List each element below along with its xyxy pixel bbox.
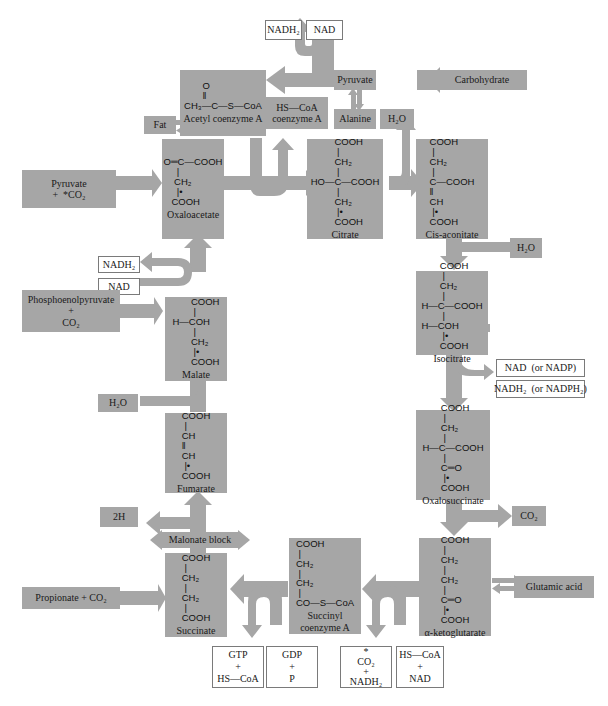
input-label: HS—CoA coenzyme A xyxy=(272,102,322,125)
input-pyruvate-top: Pyruvate xyxy=(334,70,376,90)
input-label: Propionate + CO₂ xyxy=(35,592,106,604)
compound-citrate: COOH | CH₂ | HO—C—COOH | CH₂ |• COOH Cit… xyxy=(307,139,383,239)
compound-name: Acetyl coenzyme A xyxy=(184,113,263,125)
input-h2o-citrate: H₂O xyxy=(380,109,414,129)
cofactor-nadh2-isocitrate: NADH₂ (or NADPH₂) xyxy=(496,380,585,398)
input-label: Fat xyxy=(154,119,167,131)
compound-formula: COOH | CH₂ | CH₂ | COOH xyxy=(182,553,211,623)
input-fat: Fat xyxy=(144,116,176,134)
input-h2o-aconitate: H₂O xyxy=(510,238,542,258)
input-phosphoenolpyruvate: Phosphoenolpyruvate + CO₂ xyxy=(22,290,120,332)
input-label: H₂O xyxy=(109,397,127,409)
compound-formula: COOH | CH₂ | C—COOH ‖ CH |• COOH xyxy=(430,137,475,227)
compound-malate: COOH | H—COH | CH₂ |• COOH Malate xyxy=(165,297,227,381)
compound-name: Malate xyxy=(182,369,210,381)
cofactor-nadh2-malate: NADH₂ xyxy=(98,256,140,273)
compound-succinate: COOH | CH₂ | CH₂ | COOH Succinate xyxy=(165,553,227,637)
input-propionate: Propionate + CO₂ xyxy=(22,587,120,609)
input-2h: 2H xyxy=(100,507,138,527)
compound-name: Isocitrate xyxy=(433,353,470,365)
compound-formula: COOH | CH₂ | HO—C—COOH | CH₂ |• COOH xyxy=(311,137,380,227)
cofactor-co2-nadh2: * CO₂ + NADH₂ xyxy=(340,646,392,688)
compound-formula: COOH | CH ‖ CH |• COOH xyxy=(182,411,211,481)
input-h2o-fumarate: H₂O xyxy=(98,394,138,412)
compound-name: Succinate xyxy=(177,625,216,637)
compound-name: Citrate xyxy=(331,229,358,241)
compound-name: Succinyl coenzyme A xyxy=(300,610,350,633)
input-hs-coa: HS—CoA coenzyme A xyxy=(266,97,328,129)
input-carbohydrate: Carbohydrate xyxy=(417,70,527,90)
input-label: H₂O xyxy=(388,113,406,125)
compound-formula: COOH | CH₂ | H—C—COOH | C═O |• COOH xyxy=(422,403,483,493)
input-label: CO₂ xyxy=(520,510,537,522)
compound-oxaloacetate: O═C—COOH | CH₂ |• COOH Oxaloacetate xyxy=(162,139,224,239)
cofactor-nad-isocitrate: NAD (or NADP) xyxy=(496,359,585,377)
cofactor-nad-top: NAD xyxy=(306,20,343,40)
cofactor-label: NADH₂ xyxy=(103,259,135,271)
compound-acetyl-coa: O ‖ CH₃—C—S—CoA Acetyl coenzyme A xyxy=(180,70,266,136)
compound-fumarate: COOH | CH ‖ CH |• COOH Fumarate xyxy=(165,413,227,493)
cofactor-label: NAD xyxy=(314,24,336,36)
compound-succinyl-coa: COOH | CH₂ | CH₂ | CO—S—CoA Succinyl coe… xyxy=(289,538,361,634)
compound-name: Oxalosuccinate xyxy=(422,495,484,507)
compound-name: Fumarate xyxy=(177,483,215,495)
output-co2-oxalosuccinate: CO₂ xyxy=(512,506,546,526)
compound-oxalosuccinate: COOH | CH₂ | H—C—COOH | C═O |• COOH Oxal… xyxy=(416,410,490,500)
input-label: Alanine xyxy=(339,113,371,125)
compound-name: Cis-aconitate xyxy=(426,229,479,241)
cofactor-label: GTP + HS—CoA xyxy=(217,649,259,685)
malonate-block-label: Malonate block xyxy=(162,532,238,548)
cofactor-label: GDP + P xyxy=(282,649,302,685)
compound-formula: COOH | CH₂ | CH₂ | CO—S—CoA xyxy=(296,539,354,609)
compound-formula: COOH | CH₂ | H—C—COOH | H—COH |• COOH xyxy=(421,261,482,351)
compound-alpha-ketoglutarate: COOH | CH₂ | CH₂ | C═O |• COOH α-ketoglu… xyxy=(419,538,491,636)
compound-cis-aconitate: COOH | CH₂ | C—COOH ‖ CH |• COOH Cis-aco… xyxy=(416,139,488,239)
input-label: 2H xyxy=(113,511,125,523)
compound-isocitrate: COOH | CH₂ | H—C—COOH | H—COH |• COOH Is… xyxy=(416,271,488,355)
compound-name: α-ketoglutarate xyxy=(425,627,486,639)
compound-formula: O ‖ CH₃—C—S—CoA xyxy=(184,81,262,111)
input-label: Pyruvate + *CO₂ xyxy=(51,178,87,201)
cofactor-label: * CO₂ + NADH₂ xyxy=(350,647,382,687)
input-label: H₂O xyxy=(517,242,535,254)
cofactor-gtp: GTP + HS—CoA xyxy=(212,646,264,688)
cofactor-hscoa-nad: HS—CoA + NAD xyxy=(396,646,444,688)
cofactor-label: NADH₂ xyxy=(267,24,299,36)
input-label: Malonate block xyxy=(169,534,231,546)
input-label: Carbohydrate xyxy=(455,74,509,86)
input-pyruvate-co2: Pyruvate + *CO₂ xyxy=(22,170,116,208)
cofactor-nadh2-top: NADH₂ xyxy=(265,20,302,40)
compound-name: Oxaloacetate xyxy=(167,209,219,221)
input-label: Phosphoenolpyruvate + CO₂ xyxy=(28,294,115,329)
cofactor-label: NADH₂ (or NADPH₂) xyxy=(494,383,587,395)
input-glutamic-acid: Glutamic acid xyxy=(514,576,594,598)
compound-formula: COOH | CH₂ | CH₂ | C═O |• COOH xyxy=(441,535,470,625)
input-alanine: Alanine xyxy=(334,109,376,129)
cofactor-gdp: GDP + P xyxy=(266,646,318,688)
input-label: Glutamic acid xyxy=(526,581,582,593)
input-label: Pyruvate xyxy=(337,74,373,86)
compound-formula: O═C—COOH | CH₂ |• COOH xyxy=(164,157,223,207)
cofactor-label: NAD (or NADP) xyxy=(505,362,576,374)
compound-formula: COOH | H—COH | CH₂ |• COOH xyxy=(173,297,220,367)
cofactor-label: HS—CoA + NAD xyxy=(399,649,441,685)
